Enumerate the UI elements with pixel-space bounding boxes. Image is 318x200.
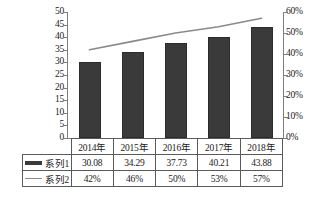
right-tick-mark [284,12,288,13]
right-axis-tick-20: 20% [286,91,316,101]
left-axis-tick-25: 25 [44,70,64,80]
left-tick-mark [63,125,67,126]
right-tick-mark [284,75,288,76]
bar-2017年 [208,37,230,138]
plot-area [68,12,283,138]
chart-data-table: 2014年2015年2016年2017年2018年系列130.0834.2937… [22,138,283,187]
left-axis-tick-50: 50 [44,7,64,17]
table-cell-系列1-2015年: 34.29 [113,155,155,171]
right-tick-mark [284,96,288,97]
right-axis-tick-0: 0% [286,133,316,143]
bar-2015年 [122,52,144,138]
left-axis-tick-35: 35 [44,45,64,55]
plot-block: 05101520253035404550 0%10%20%30%40%50%60… [0,12,318,146]
right-tick-mark [284,33,288,34]
bar-slot [240,12,283,138]
table-corner-cell [23,139,72,155]
left-axis-tick-45: 45 [44,20,64,30]
left-tick-mark [63,37,67,38]
bar-2016年 [165,43,187,138]
left-tick-mark [63,75,67,76]
table-cell-系列2-2018年: 57% [240,171,282,187]
legend-cell-系列2: 系列2 [23,171,72,187]
bar-swatch-icon [25,161,42,165]
right-tick-mark [284,117,288,118]
legend-label: 系列2 [45,172,69,186]
line-swatch-icon [25,178,42,179]
bar-slot [111,12,154,138]
left-axis-tick-5: 5 [44,120,64,130]
left-axis-tick-10: 10 [44,108,64,118]
right-axis-tick-50: 50% [286,28,316,38]
table-cell-系列1-2014年: 30.08 [71,155,113,171]
table-header-2015年: 2015年 [113,139,155,155]
bar-series-series1 [68,12,283,138]
right-axis-tick-10: 10% [286,112,316,122]
left-tick-mark [63,25,67,26]
table-cell-系列2-2017年: 53% [198,171,240,187]
table-cell-系列2-2016年: 50% [156,171,198,187]
left-axis-tick-20: 20 [44,83,64,93]
bar-2018年 [251,27,273,138]
bar-slot [154,12,197,138]
table-row: 系列130.0834.2937.7340.2143.88 [23,155,283,171]
left-axis-tick-15: 15 [44,95,64,105]
bar-2014年 [79,62,101,138]
bar-slot [197,12,240,138]
right-axis-tick-60: 60% [286,7,316,17]
table-header-2014年: 2014年 [71,139,113,155]
table-header-row: 2014年2015年2016年2017年2018年 [23,139,283,155]
left-tick-mark [63,12,67,13]
bar-slot [68,12,111,138]
table-header-2016年: 2016年 [156,139,198,155]
table-row: 系列242%46%50%53%57% [23,171,283,187]
right-axis-tick-30: 30% [286,70,316,80]
table-cell-系列2-2014年: 42% [71,171,113,187]
combo-bar-line-chart: 05101520253035404550 0%10%20%30%40%50%60… [0,0,318,200]
legend-cell-系列1: 系列1 [23,155,72,171]
table-cell-系列1-2018年: 43.88 [240,155,282,171]
left-tick-mark [63,50,67,51]
table-cell-系列1-2016年: 37.73 [156,155,198,171]
legend-label: 系列1 [45,156,69,170]
table-cell-系列2-2015年: 46% [113,171,155,187]
left-tick-mark [63,88,67,89]
table-header-2017年: 2017年 [198,139,240,155]
left-tick-mark [63,100,67,101]
table-cell-系列1-2017年: 40.21 [198,155,240,171]
left-axis-tick-labels: 05101520253035404550 [44,12,64,138]
right-axis-tick-labels: 0%10%20%30%40%50%60% [286,12,316,138]
right-tick-mark [284,138,288,139]
left-axis-tick-30: 30 [44,57,64,67]
right-tick-mark [284,54,288,55]
right-axis-tick-40: 40% [286,49,316,59]
table-header-2018年: 2018年 [240,139,282,155]
left-tick-mark [63,62,67,63]
left-axis-tick-40: 40 [44,32,64,42]
left-tick-mark [63,113,67,114]
